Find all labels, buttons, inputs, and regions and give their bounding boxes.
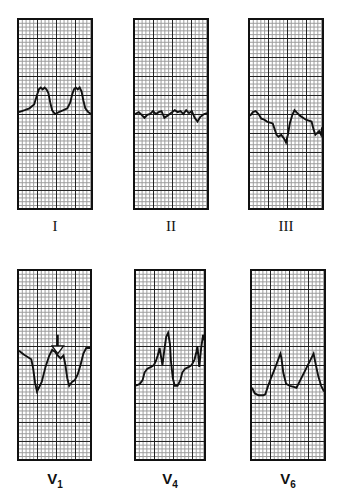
lead-label-ii: II — [131, 218, 211, 235]
ecg-trace-lead-v6 — [252, 271, 324, 459]
ecg-trace-lead-v4 — [136, 271, 204, 459]
ecg-strip-lead-v4 — [134, 269, 206, 461]
ecg-strip-lead-v6 — [250, 269, 326, 461]
ecg-trace-lead-i — [19, 20, 91, 208]
ecg-trace-lead-ii — [135, 20, 207, 208]
ecg-strip-lead-i — [17, 18, 93, 210]
lead-label-i: I — [15, 218, 95, 235]
lead-label-v6: V6 — [248, 470, 328, 490]
ecg-trace-lead-v1 — [19, 271, 90, 459]
ecg-strip-lead-v1 — [17, 269, 92, 461]
lead-label-v4: V4 — [130, 470, 210, 490]
ecg-trace-lead-iii — [250, 20, 322, 208]
ecg-strip-lead-ii — [133, 18, 209, 210]
ecg-strip-lead-iii — [248, 18, 324, 210]
lead-label-iii: III — [246, 218, 326, 235]
lead-label-v1: V1 — [15, 470, 95, 490]
